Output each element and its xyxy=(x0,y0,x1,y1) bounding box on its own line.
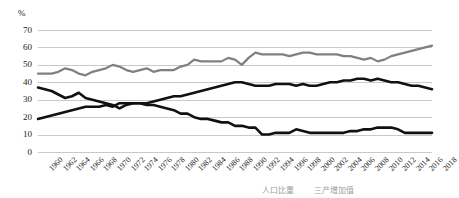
y-axis-tick-label: 50 xyxy=(6,60,32,69)
y-axis-tick-label: 30 xyxy=(6,95,32,104)
legend-entry: 三产增加值 xyxy=(314,186,354,195)
series-paths xyxy=(38,30,432,152)
x-axis-tick-label: 2018 xyxy=(442,156,459,173)
y-axis-tick-label: 70 xyxy=(6,26,32,35)
y-axis-tick-label: 40 xyxy=(6,78,32,87)
chart-legend: 人口比重三产增加值 xyxy=(262,186,442,197)
legend-entry: 人口比重 xyxy=(262,186,294,195)
plot-area xyxy=(38,30,432,152)
series-line-black-upper-series xyxy=(38,79,432,119)
y-axis-tick-label: 0 xyxy=(6,148,32,157)
y-axis-tick-label: 10 xyxy=(6,130,32,139)
series-line-gray-series xyxy=(38,46,432,76)
y-axis-tick-label: 60 xyxy=(6,43,32,52)
y-axis-unit-label: % xyxy=(18,8,26,18)
series-line-black-lower-series xyxy=(38,88,432,135)
y-axis-tick-label: 20 xyxy=(6,113,32,122)
gridline xyxy=(38,152,432,153)
